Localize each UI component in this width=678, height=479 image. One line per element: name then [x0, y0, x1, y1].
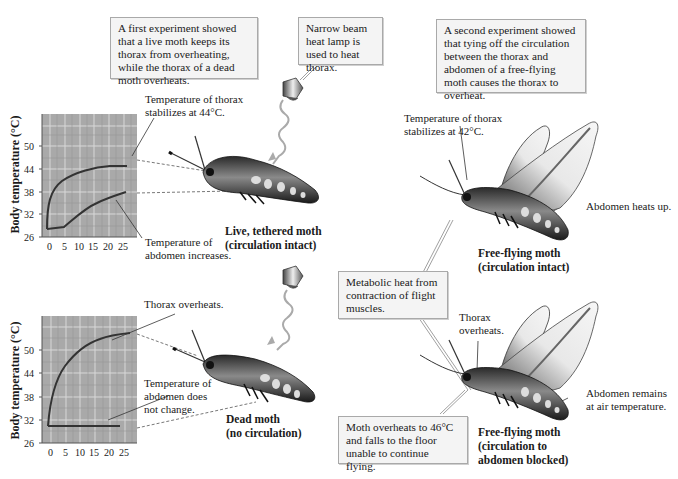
metabolic-heat-caption: Metabolic heat from contraction of fligh…: [338, 271, 448, 319]
bottom-chart: [39, 316, 137, 443]
top-thorax-label: Temperature of thorax stabilizes at 44°C…: [145, 93, 243, 119]
top-chart-ylabel: Body temperature (°C): [8, 108, 23, 242]
free-moth-caption: Free-flying moth (circulation intact): [478, 246, 569, 274]
blocked-thorax-label: Thorax overheats.: [459, 311, 504, 337]
bottom-ytick: 44: [24, 367, 34, 380]
free-thorax-label: Temperature of thorax stabilizes at 42°C…: [404, 112, 502, 138]
top-abdomen-label: Temperature of abdomen increases.: [145, 236, 231, 262]
bottom-xtick: 0: [48, 446, 53, 459]
bottom-xtick: 25: [119, 446, 129, 459]
top-xtick: 5: [62, 240, 67, 253]
top-xtick: 0: [47, 240, 52, 253]
top-chart: [39, 114, 137, 237]
dead-moth-caption: Dead moth (no circulation): [226, 412, 302, 440]
bottom-ytick: 50: [24, 344, 34, 357]
top-ytick: 32: [24, 208, 34, 221]
bottom-ytick: 26: [24, 437, 34, 450]
overheat-falls-caption: Moth overheats to 46°C and falls to the …: [338, 416, 468, 464]
heat-lamp-bottom-icon: [283, 266, 303, 288]
live-moth-caption: Live, tethered moth (circulation intact): [225, 224, 322, 252]
live-moth-illustration: [169, 136, 319, 204]
blocked-moth-caption: Free-flying moth (circulation to abdomen…: [478, 425, 568, 467]
bottom-xtick: 20: [104, 446, 114, 459]
bottom-abdomen-label: Temperature of abdomen does not change.: [144, 377, 211, 416]
bottom-xtick: 5: [63, 446, 68, 459]
top-xtick: 10: [74, 240, 84, 253]
experiment1-caption: A first experiment showed that a live mo…: [110, 17, 258, 79]
top-ytick: 44: [24, 163, 34, 176]
bottom-ytick: 38: [24, 391, 34, 404]
heat-lamp-top-icon: [283, 78, 303, 100]
bottom-xtick: 15: [89, 446, 99, 459]
top-xtick: 25: [118, 240, 128, 253]
top-ytick: 26: [24, 231, 34, 244]
heat-lamp-caption: Narrow beam heat lamp is used to heat th…: [298, 17, 383, 65]
top-ytick: 50: [24, 140, 34, 153]
blocked-moth-illustration: [420, 302, 598, 420]
bottom-thorax-label: Thorax overheats.: [144, 298, 223, 311]
top-xtick: 15: [88, 240, 98, 253]
top-ytick: 38: [24, 186, 34, 199]
bottom-xtick: 10: [75, 446, 85, 459]
blocked-abdomen-label: Abdomen remains at air temperature.: [586, 387, 667, 413]
bottom-chart-ylabel: Body temperature (°C): [8, 314, 23, 448]
top-xtick: 20: [103, 240, 113, 253]
free-abdomen-label: Abdomen heats up.: [586, 200, 671, 213]
free-moth-illustration: [420, 122, 598, 240]
bottom-ytick: 32: [24, 414, 34, 427]
experiment2-caption: A second experiment showed that tying of…: [436, 19, 586, 93]
